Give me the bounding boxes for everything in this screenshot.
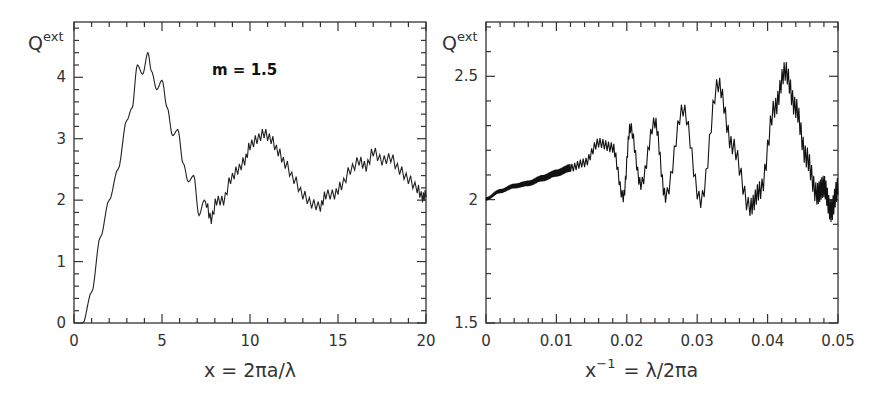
y-tick-label: 2.5 <box>454 67 478 85</box>
x-tick-label: 0.05 <box>821 332 854 350</box>
y-tick-label: 4 <box>56 68 66 86</box>
right-y-tick-labels: 1.522.5 <box>454 67 478 332</box>
x-tick-label: 10 <box>240 332 259 350</box>
right-x-tick-labels: 00.010.020.030.040.05 <box>481 332 854 350</box>
x-tick-label: 0.03 <box>680 332 713 350</box>
x-tick-label: 0 <box>69 332 79 350</box>
left-chart-panel: Qext m = 1.5 x = 2πa/λ 05101520 01234 <box>28 22 436 381</box>
figure: Qext m = 1.5 x = 2πa/λ 05101520 01234 Qe… <box>0 0 877 403</box>
x-tick-label: 0 <box>481 332 491 350</box>
right-ticks <box>486 22 838 323</box>
right-x-axis-label: x−1= λ/2πa <box>585 356 698 381</box>
right-data-line <box>486 62 838 222</box>
left-x-tick-labels: 05101520 <box>69 332 435 350</box>
x-tick-label: 20 <box>416 332 435 350</box>
y-tick-label: 0 <box>56 314 66 332</box>
y-tick-label: 3 <box>56 130 66 148</box>
x-tick-label: 0.02 <box>610 332 643 350</box>
left-data-line <box>83 53 426 323</box>
refractive-index-annotation: m = 1.5 <box>212 61 277 79</box>
left-y-tick-labels: 01234 <box>56 68 66 332</box>
right-y-axis-label: Qext <box>442 29 478 54</box>
x-tick-label: 5 <box>157 332 167 350</box>
left-x-axis-label: x = 2πa/λ <box>204 359 296 381</box>
y-tick-label: 2 <box>56 191 66 209</box>
y-tick-label: 1.5 <box>454 314 478 332</box>
right-plot-frame <box>486 22 838 323</box>
left-y-axis-label: Qext <box>28 29 64 54</box>
x-tick-label: 0.04 <box>751 332 784 350</box>
x-tick-label: 0.01 <box>540 332 573 350</box>
y-tick-label: 2 <box>468 191 478 209</box>
y-tick-label: 1 <box>56 253 66 271</box>
x-tick-label: 15 <box>328 332 347 350</box>
right-chart-panel: Qext x−1= λ/2πa 00.010.020.030.040.05 1.… <box>442 22 855 381</box>
